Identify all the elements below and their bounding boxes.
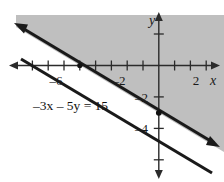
equation-annotation-text: –3x – 5y = 15 (32, 98, 108, 113)
x-tick-label-minus2: –2 (112, 73, 126, 88)
y-tick-label-minus2: –2 (134, 90, 148, 105)
y-intercept-point (156, 110, 162, 116)
inequality-graph-figure: –6 –2 2 –2 –4 y x –3x – 5y = 15 (0, 0, 224, 182)
x-intercept-point (77, 63, 82, 68)
equation-annotation: –3x – 5y = 15 (32, 98, 108, 113)
x-tick-label-minus6: –6 (49, 73, 64, 88)
x-axis-name-label: x (209, 73, 217, 88)
y-axis-name-label: y (147, 13, 156, 28)
x-tick-label-2: 2 (193, 73, 200, 88)
y-tick-label-minus4: –4 (134, 121, 149, 136)
